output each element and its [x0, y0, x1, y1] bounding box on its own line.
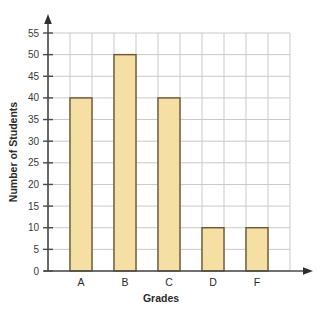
y-tick-label-50: 50: [28, 49, 40, 60]
y-tick-label-30: 30: [28, 136, 40, 147]
y-axis-arrowhead: [44, 14, 52, 24]
bar-A: [70, 98, 92, 271]
x-tick-label-B: B: [121, 276, 128, 288]
bar-F: [246, 228, 268, 271]
x-axis-arrowhead: [303, 267, 313, 275]
y-tick-label-20: 20: [28, 179, 40, 190]
y-axis-title: Number of Students: [7, 102, 19, 202]
x-tick-label-A: A: [77, 276, 84, 288]
y-tick-label-55: 55: [28, 28, 40, 39]
chart-canvas: 0510152025303540455055 ABCDF Grades Numb…: [0, 0, 322, 312]
x-tick-label-C: C: [165, 276, 173, 288]
y-tick-label-40: 40: [28, 92, 40, 103]
y-axis-tick-labels: 0510152025303540455055: [28, 28, 40, 277]
x-axis-tick-labels: ABCDF: [77, 276, 260, 288]
y-tick-label-10: 10: [28, 222, 40, 233]
y-tick-label-35: 35: [28, 114, 40, 125]
bar-D: [202, 228, 224, 271]
bar-B: [114, 55, 136, 271]
y-tick-label-45: 45: [28, 71, 40, 82]
x-tick-label-F: F: [254, 276, 260, 288]
y-tick-label-5: 5: [33, 244, 39, 255]
y-tick-label-15: 15: [28, 201, 40, 212]
x-axis-title: Grades: [143, 292, 179, 304]
bar-C: [158, 98, 180, 271]
y-tick-label-0: 0: [33, 266, 39, 277]
x-tick-label-D: D: [209, 276, 217, 288]
y-tick-label-25: 25: [28, 157, 40, 168]
bar-chart: 0510152025303540455055 ABCDF Grades Numb…: [0, 0, 322, 312]
